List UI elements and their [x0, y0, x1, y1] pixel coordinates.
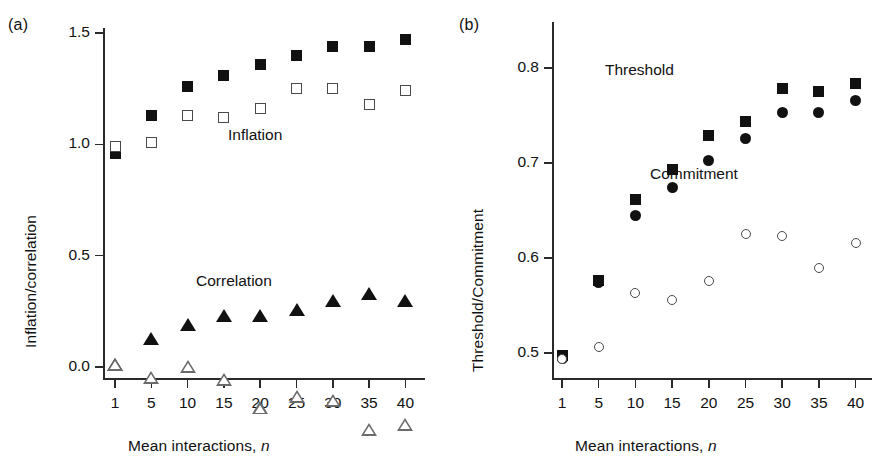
panel-a-x-tick-label: 15 — [204, 394, 244, 412]
panel-b-y-tick — [544, 67, 552, 69]
panel-b-data-point — [851, 238, 861, 248]
panel-b-data-point — [813, 107, 824, 118]
panel-a-data-point — [361, 287, 377, 300]
panel-a-y-tick-label: 1.0 — [68, 134, 90, 152]
panel-a-x-axis-label-text: Mean interactions, — [128, 437, 256, 454]
panel-b-data-point — [777, 83, 788, 94]
panel-b-tag: (b) — [459, 16, 479, 34]
panel-b-data-point — [777, 231, 787, 241]
panel-b-data-point — [704, 276, 714, 286]
panel-a-y-tick — [95, 144, 103, 146]
panel-b-x-tick — [708, 380, 710, 388]
panel-a-data-point — [110, 141, 121, 152]
panel-b-y-tick-label: 0.6 — [517, 248, 539, 266]
panel-a-data-point — [291, 50, 302, 61]
panel-a-y-axis-line — [103, 28, 105, 378]
panel-b-x-tick-label: 35 — [799, 394, 839, 412]
panel-a-y-tick-label: 1.5 — [68, 23, 90, 41]
panel-b-y-axis-line — [552, 22, 554, 378]
panel-a-data-point — [252, 401, 268, 414]
panel-a-x-axis-label: Mean interactions, n — [128, 437, 270, 455]
panel-a-data-point — [182, 81, 193, 92]
panel-a-x-tick — [368, 380, 370, 388]
panel-a-data-point — [252, 309, 268, 322]
panel-b-y-tick — [544, 257, 552, 259]
panel-a-data-point — [255, 103, 266, 114]
panel-a-x-tick-label: 10 — [168, 394, 208, 412]
panel-b-series-annotation: Commitment — [650, 165, 738, 183]
panel-b-x-tick — [855, 380, 857, 388]
panel-a-data-point — [218, 70, 229, 81]
panel-a-data-point — [218, 112, 229, 123]
panel-a-x-axis-label-symbol: n — [261, 437, 270, 454]
panel-a-y-tick — [95, 255, 103, 257]
panel-b-x-axis-label-text: Mean interactions, — [575, 437, 703, 454]
panel-b-x-tick — [818, 380, 820, 388]
panel-a-y-tick-label: 0.0 — [68, 357, 90, 375]
panel-b-x-tick-label: 25 — [726, 394, 766, 412]
panel-a-data-point — [325, 294, 341, 307]
panel-b-x-axis-label-symbol: n — [708, 437, 717, 454]
panel-b-data-point — [593, 277, 604, 288]
panel-a-data-point — [291, 83, 302, 94]
panel-b-data-point — [703, 155, 714, 166]
panel-a-data-point — [180, 360, 196, 373]
panel-b-x-tick — [781, 380, 783, 388]
panel-b-x-tick-label: 15 — [652, 394, 692, 412]
panel-a-data-point — [325, 394, 341, 407]
panel-b-data-point — [703, 130, 714, 141]
panel-b-y-tick-label: 0.7 — [517, 153, 539, 171]
panel-a-data-point — [180, 318, 196, 331]
panel-a-data-point — [400, 85, 411, 96]
panel-b-x-tick-label: 40 — [836, 394, 876, 412]
panel-a-x-tick-label: 40 — [385, 394, 425, 412]
panel-a-data-point — [364, 99, 375, 110]
panel-a-x-tick — [187, 380, 189, 388]
panel-a-data-point — [364, 41, 375, 52]
panel-b: (b) Threshold/Commitment Mean interactio… — [447, 0, 895, 475]
panel-a-data-point — [143, 332, 159, 345]
panel-a-data-point — [289, 390, 305, 403]
panel-b-x-tick — [561, 380, 563, 388]
panel-a-x-tick — [296, 380, 298, 388]
panel-b-data-point — [667, 295, 677, 305]
panel-b-x-tick-label: 5 — [579, 394, 619, 412]
panel-a-data-point — [327, 83, 338, 94]
panel-b-x-tick-label: 30 — [762, 394, 802, 412]
panel-b-series-annotation: Threshold — [605, 61, 674, 79]
panel-b-x-tick-label: 10 — [615, 394, 655, 412]
panel-b-x-tick-label: 20 — [689, 394, 729, 412]
panel-b-data-point — [814, 263, 824, 273]
panel-b-data-point — [557, 354, 567, 364]
panel-b-data-point — [850, 78, 861, 89]
panel-b-y-tick — [544, 352, 552, 354]
panel-a-series-annotation: Inflation — [228, 126, 282, 144]
panel-a-data-point — [361, 423, 377, 436]
panel-a-data-point — [107, 358, 123, 371]
panel-a-data-point — [255, 59, 266, 70]
panel-b-data-point — [740, 116, 751, 127]
panel-a-data-point — [143, 371, 159, 384]
panel-b-y-axis-label: Threshold/Commitment — [469, 209, 487, 372]
panel-b-data-point — [813, 86, 824, 97]
panel-b-data-point — [630, 194, 641, 205]
panel-b-data-point — [850, 95, 861, 106]
panel-a-tag: (a) — [8, 16, 28, 34]
panel-a-data-point — [400, 34, 411, 45]
panel-b-data-point — [740, 133, 751, 144]
panel-a-series-annotation: Correlation — [196, 272, 272, 290]
panel-a-data-point — [182, 110, 193, 121]
panel-a-data-point — [216, 373, 232, 386]
panel-a-x-tick — [332, 380, 334, 388]
panel-b-y-tick-label: 0.5 — [517, 343, 539, 361]
panel-b-data-point — [594, 342, 604, 352]
panel-b-y-tick-label: 0.8 — [517, 58, 539, 76]
panel-b-x-tick-label: 1 — [542, 394, 582, 412]
figure-root: (a) Inflation/correlation Mean interacti… — [0, 0, 895, 475]
panel-b-x-tick — [671, 380, 673, 388]
panel-b-data-point — [667, 182, 678, 193]
panel-a-x-tick — [114, 380, 116, 388]
panel-b-data-point — [741, 229, 751, 239]
panel-a-x-tick — [405, 380, 407, 388]
panel-b-x-tick — [745, 380, 747, 388]
